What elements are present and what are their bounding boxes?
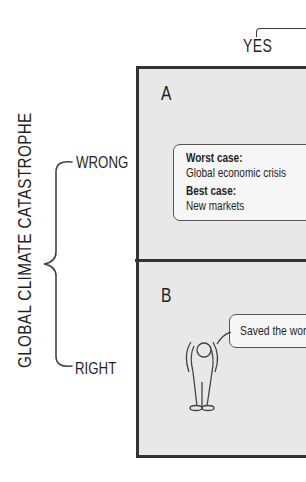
callout-b-text: Saved the world [240,323,306,338]
curly-brace-icon [40,160,76,370]
row-label-right: RIGHT [75,359,116,379]
decision-matrix-diagram: YES GLOBAL CLIMATE CATASTROPHE WRONG RIG… [0,0,306,482]
best-case-value: New markets [186,199,287,214]
worst-case-value: Global economic crisis [186,166,287,181]
worst-case-label: Worst case: [186,151,287,166]
cell-a: A Worst case: Global economic crisis Bes… [139,69,306,259]
cell-b: B Saved the world [139,262,306,455]
callout-a: Worst case: Global economic crisis Best … [173,144,306,221]
matrix-box: A Worst case: Global economic crisis Bes… [136,66,306,458]
row-label-wrong: WRONG [76,153,128,173]
best-case-label: Best case: [186,184,287,199]
callout-b: Saved the world [229,314,306,348]
person-arms-raised-icon [179,332,239,432]
row-axis-title: GLOBAL CLIMATE CATASTROPHE [14,112,36,368]
column-header-yes: YES [243,36,272,57]
cell-letter-b: B [161,284,171,307]
cell-letter-a: A [161,82,171,105]
